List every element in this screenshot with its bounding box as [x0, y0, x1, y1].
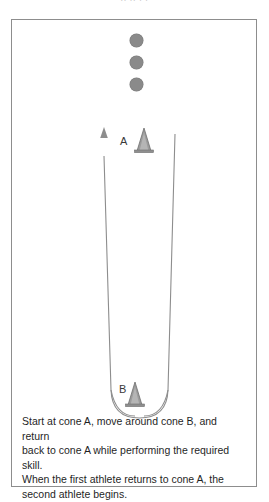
instructions-line-1: Start at cone A, move around cone B, and… [22, 414, 247, 443]
athlete-dot-1 [130, 34, 143, 47]
path-right-leg [144, 134, 175, 416]
direction-arrow-icon [100, 127, 108, 138]
path-left-leg [104, 156, 135, 416]
cone-b-icon [126, 382, 145, 407]
instructions-caption: Start at cone A, move around cone B, and… [11, 414, 247, 502]
athlete-dot-2 [130, 56, 143, 69]
instructions-line-4: second athlete begins. [22, 487, 247, 502]
cut-off-caption-fragment: .. .. . . [0, 0, 269, 2]
cone-a-icon [135, 128, 154, 153]
cone-a-label: A [120, 136, 127, 147]
instructions-line-2: back to cone A while performing the requ… [22, 443, 247, 472]
instructions-line-3: When the first athlete returns to cone A… [22, 472, 247, 487]
athlete-dot-3 [130, 78, 143, 91]
cone-b-label: B [119, 384, 126, 395]
